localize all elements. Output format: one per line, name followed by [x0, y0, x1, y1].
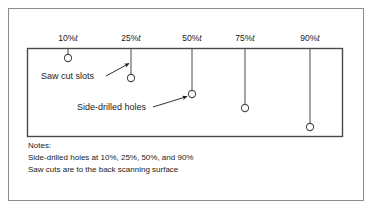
depth-marker-25: 25%t	[121, 33, 141, 82]
side-drilled-hole-90	[306, 123, 313, 130]
depth-marker-75: 75%t	[235, 33, 255, 112]
depth-marker-90: 90%t	[300, 33, 320, 131]
saw-cut-slots-leader-line	[106, 64, 129, 77]
figure-screenshot: 10%t 25%t 50%t 75	[0, 0, 373, 210]
depth-marker-group: 10%t 25%t 50%t 75	[58, 33, 320, 131]
depth-label-50: 50%t	[182, 33, 202, 43]
notes-line-1: Side-drilled holes at 10%, 25%, 50%, and…	[28, 153, 193, 162]
callout-side-drilled-holes: Side-drilled holes	[77, 97, 187, 113]
depth-label-75: 75%t	[235, 33, 255, 43]
calibration-block	[28, 49, 343, 137]
side-drilled-hole-50	[188, 90, 195, 97]
technical-diagram: 10%t 25%t 50%t 75	[0, 0, 373, 210]
notes-heading: Notes:	[28, 141, 51, 150]
callout-saw-cut-slots: Saw cut slots	[41, 64, 129, 82]
side-drilled-hole-10	[64, 54, 71, 61]
depth-label-10: 10%t	[58, 33, 78, 43]
depth-marker-50: 50%t	[182, 33, 202, 98]
notes-block: Notes: Side-drilled holes at 10%, 25%, 5…	[28, 141, 193, 174]
side-drilled-hole-75	[241, 104, 248, 111]
side-drilled-holes-leader-line	[153, 97, 187, 108]
side-drilled-hole-25	[127, 74, 134, 81]
depth-label-25: 25%t	[121, 33, 141, 43]
depth-label-90: 90%t	[300, 33, 320, 43]
saw-cut-slots-label: Saw cut slots	[41, 71, 95, 81]
side-drilled-holes-label: Side-drilled holes	[77, 102, 147, 112]
depth-marker-10: 10%t	[58, 33, 78, 62]
notes-line-2: Saw cuts are to the back scanning surfac…	[28, 165, 179, 174]
